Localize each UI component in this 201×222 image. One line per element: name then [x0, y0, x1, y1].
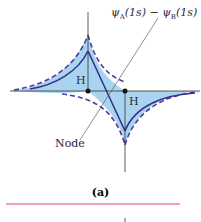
- orbital-fill-region: [10, 35, 200, 145]
- psi-b-argument: (1s): [176, 6, 197, 19]
- node-label: Node: [55, 137, 85, 150]
- psi-b: ψ: [162, 6, 171, 19]
- nucleus-right: [123, 89, 128, 94]
- psi-a: ψ: [111, 6, 120, 19]
- minus-sign: −: [146, 6, 162, 19]
- nucleus-left: [86, 89, 91, 94]
- nucleus-left-label: H: [76, 74, 86, 87]
- figure-caption: (a): [0, 186, 201, 199]
- wavefunction-label: ψA(1s) − ψB(1s): [111, 6, 197, 21]
- nucleus-right-label: H: [129, 95, 139, 108]
- psi-a-argument: (1s): [125, 6, 146, 19]
